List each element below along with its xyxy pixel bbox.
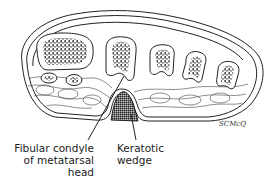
- artist-signature: SCMcQ: [219, 120, 246, 128]
- fibular-condyle-label-line-1: Fibular condyle: [14, 142, 94, 154]
- keratotic-wedge-label-line-1: Keratotic: [117, 142, 164, 154]
- fibular-condyle-label: Fibular condyle of metatarsal head: [14, 142, 94, 178]
- keratotic-wedge-label: Keratotic wedge: [117, 142, 164, 166]
- soft-tissue: [28, 77, 248, 109]
- foot-cross-section-figure: Fibular condyle of metatarsal head Kerat…: [0, 0, 277, 179]
- metatarsal-heads: [37, 33, 239, 89]
- fibular-condyle-label-line-3: head: [14, 166, 94, 178]
- fibular-condyle-label-line-2: of metatarsal: [14, 154, 94, 166]
- keratotic-wedge-label-line-2: wedge: [117, 154, 164, 166]
